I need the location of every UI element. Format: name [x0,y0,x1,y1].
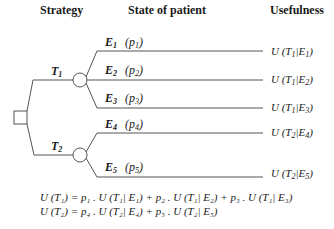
u-mid: |E [295,45,305,57]
formula-u-t2: U (T₂) = p₄ . U (T₂| E₄) + p₅ . U (T₂| E… [40,205,218,217]
u-prefix: U (T [271,73,291,85]
event-letter: E [105,117,113,131]
prob-end: ) [139,160,143,174]
event-letter: E [105,63,113,77]
chance-node-t2 [73,148,87,162]
prob-end: ) [139,35,143,49]
utility-t1-e1: U (T1|E1) [271,45,313,59]
u-end: ) [309,126,313,138]
u-prefix: U (T [271,126,291,138]
utility-t2-e4: U (T2|E4) [271,126,313,140]
event-e4: E4(p4) [105,117,143,132]
formula-u-t1: U (T₁) = p₁ . U (T₁| E₁) + p₂ . U (T₁| E… [40,191,292,203]
chance-node-t1 [73,73,87,87]
prob: (p [125,117,135,131]
utility-t1-e3: U (T1|E3) [271,101,313,115]
prob: (p [125,35,135,49]
u-mid: |E [295,126,305,138]
event-letter: E [105,160,113,174]
prob-end: ) [139,63,143,77]
strategy-t1: T1 [51,64,62,79]
header-state-of-patient: State of patient [128,3,206,18]
strategy-t2: T2 [51,139,62,154]
prob-end: ) [139,91,143,105]
prob: (p [125,63,135,77]
event-e1: E1(p1) [105,35,143,50]
u-end: ) [309,45,313,57]
u-end: ) [309,167,313,179]
prob: (p [125,160,135,174]
prob: (p [125,91,135,105]
event-sub: 3 [113,97,117,106]
strategy-sub: 2 [58,145,62,154]
u-mid: |E [295,73,305,85]
u-prefix: U (T [271,45,291,57]
utility-t2-e5: U (T2|E5) [271,167,313,181]
u-end: ) [309,73,313,85]
event-letter: E [105,35,113,49]
strategy-sub: 1 [58,70,62,79]
utility-t1-e2: U (T1|E2) [271,73,313,87]
event-sub: 2 [113,69,117,78]
event-sub: 1 [113,41,117,50]
u-prefix: U (T [271,167,291,179]
event-e3: E3(p3) [105,91,143,106]
u-end: ) [309,101,313,113]
u-prefix: U (T [271,101,291,113]
header-strategy: Strategy [40,3,83,18]
event-e5: E5(p5) [105,160,143,175]
event-sub: 4 [113,123,117,132]
prob-end: ) [139,117,143,131]
event-e2: E2(p2) [105,63,143,78]
event-sub: 5 [113,166,117,175]
header-usefulness: Usefulness [270,3,324,18]
event-letter: E [105,91,113,105]
decision-node-square [14,111,27,124]
u-mid: |E [295,101,305,113]
u-mid: |E [295,167,305,179]
